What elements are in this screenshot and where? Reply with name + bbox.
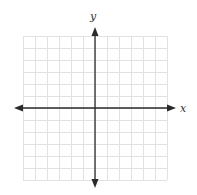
y-axis-bottom-arrow-icon	[92, 179, 99, 188]
coordinate-plane: x y	[0, 0, 197, 195]
x-axis-left-arrow-icon	[14, 105, 23, 112]
x-axis-right-arrow-icon	[167, 105, 176, 112]
x-axis-label: x	[180, 102, 187, 115]
y-axis-top-arrow-icon	[92, 27, 99, 36]
y-axis-label: y	[89, 10, 97, 23]
